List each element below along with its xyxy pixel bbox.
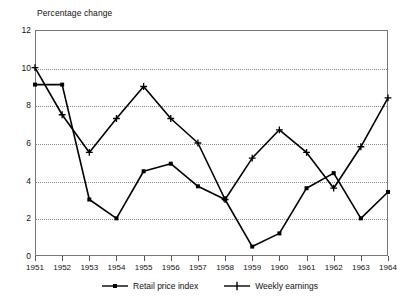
data-point — [32, 64, 39, 71]
data-point — [60, 83, 64, 87]
legend-plus-marker-icon — [224, 281, 250, 291]
x-tick-label-1953: 1953 — [80, 263, 98, 272]
y-tick-label-2: 2 — [5, 213, 31, 223]
data-point — [169, 162, 173, 166]
legend-item-weekly-earnings[interactable]: Weekly earnings — [224, 281, 318, 291]
x-tick-label-1951: 1951 — [26, 263, 44, 272]
x-tick-mark-1951 — [35, 256, 36, 261]
x-tick-mark-1957 — [198, 256, 199, 261]
legend-square-marker-icon — [102, 281, 128, 291]
y-tick-label-0: 0 — [5, 251, 31, 261]
x-tick-label-1958: 1958 — [216, 263, 234, 272]
x-tick-mark-1955 — [144, 256, 145, 261]
x-tick-mark-1954 — [116, 256, 117, 261]
x-tick-label-1959: 1959 — [243, 263, 261, 272]
x-tick-mark-1953 — [89, 256, 90, 261]
x-tick-mark-1958 — [225, 256, 226, 261]
data-point — [332, 171, 336, 175]
chart-legend: Retail price indexWeekly earnings — [0, 281, 420, 291]
y-axis-ticks: 024681012 — [0, 30, 31, 256]
data-point — [142, 169, 146, 173]
x-tick-mark-1962 — [334, 256, 335, 261]
x-tick-label-1956: 1956 — [162, 263, 180, 272]
x-tick-mark-1964 — [388, 256, 389, 261]
data-point — [386, 190, 390, 194]
legend-label: Retail price index — [133, 281, 198, 291]
x-tick-label-1957: 1957 — [189, 263, 207, 272]
data-point — [33, 83, 37, 87]
x-tick-label-1954: 1954 — [108, 263, 126, 272]
data-point — [196, 184, 200, 188]
x-tick-label-1955: 1955 — [135, 263, 153, 272]
data-point — [359, 216, 363, 220]
x-tick-label-1963: 1963 — [352, 263, 370, 272]
data-point — [87, 198, 91, 202]
series-line — [35, 85, 388, 247]
legend-item-retail-price-index[interactable]: Retail price index — [102, 281, 198, 291]
x-tick-label-1960: 1960 — [270, 263, 288, 272]
x-tick-mark-1963 — [361, 256, 362, 261]
x-tick-label-1952: 1952 — [53, 263, 71, 272]
y-axis-title: Percentage change — [37, 8, 112, 18]
x-axis-ticks: 1951195219531954195519561957195819591960… — [35, 256, 388, 278]
data-point — [250, 245, 254, 249]
data-point — [305, 186, 309, 190]
y-tick-label-4: 4 — [5, 176, 31, 186]
y-tick-label-8: 8 — [5, 100, 31, 110]
series-line — [35, 68, 388, 200]
y-tick-label-12: 12 — [5, 25, 31, 35]
chart-root: Percentage change 024681012 195119521953… — [0, 0, 420, 300]
data-point — [277, 231, 281, 235]
x-tick-label-1964: 1964 — [379, 263, 397, 272]
x-tick-mark-1960 — [279, 256, 280, 261]
series-layer — [35, 30, 388, 256]
x-tick-label-1961: 1961 — [298, 263, 316, 272]
x-tick-mark-1956 — [171, 256, 172, 261]
legend-label: Weekly earnings — [255, 281, 318, 291]
x-tick-mark-1952 — [62, 256, 63, 261]
y-tick-label-6: 6 — [5, 138, 31, 148]
data-point — [114, 216, 118, 220]
x-tick-label-1962: 1962 — [325, 263, 343, 272]
series-retail-price-index — [33, 83, 390, 249]
y-tick-label-10: 10 — [5, 63, 31, 73]
x-tick-mark-1961 — [307, 256, 308, 261]
x-tick-mark-1959 — [252, 256, 253, 261]
data-point — [385, 94, 392, 101]
